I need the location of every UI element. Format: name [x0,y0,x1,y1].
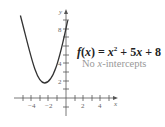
svg-text:4: 4 [98,102,102,110]
svg-text:y: y [58,8,63,16]
svg-text:2: 2 [58,78,62,86]
svg-text:8: 8 [58,26,62,34]
svg-text:x: x [113,100,118,108]
svg-text:4: 4 [58,60,62,68]
svg-text:−4: −4 [28,102,36,110]
intercepts-note: No x-intercepts [82,58,146,69]
y-axis-arrow-icon [64,9,68,14]
svg-text:−2: −2 [45,102,53,110]
svg-text:2: 2 [81,102,85,110]
